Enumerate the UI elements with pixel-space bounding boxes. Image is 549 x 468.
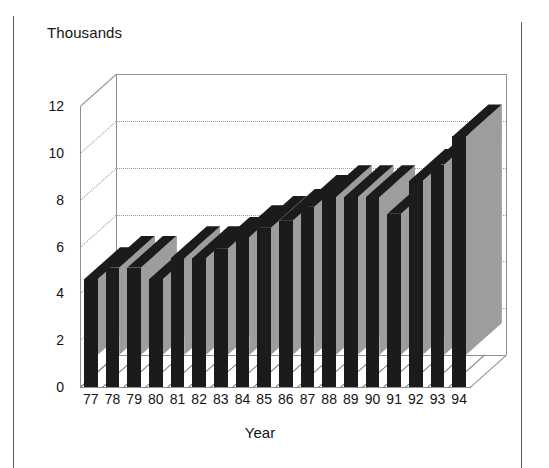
plot-area: 024681012 777879808182838485868788899091… <box>0 0 549 468</box>
y-tick-label-4: 4 <box>34 286 64 300</box>
bar-front-face-84 <box>236 237 249 387</box>
bar-front-face-88 <box>322 197 335 387</box>
chart-page: Thousands 024681012 77787980818283848586… <box>0 0 549 468</box>
bar-front-face-91 <box>387 214 400 387</box>
bar-front-face-86 <box>279 221 292 387</box>
bar-side-face-94 <box>466 104 502 355</box>
y-tick-label-10: 10 <box>34 146 64 160</box>
side-gridline-8 <box>80 168 117 201</box>
x-tick-label-94: 94 <box>446 392 472 406</box>
x-axis-title: Year <box>0 424 520 441</box>
side-gridline-6 <box>80 215 117 248</box>
bar-front-face-85 <box>257 228 270 387</box>
bar-front-face-80 <box>149 279 162 387</box>
back-wall-right-edge <box>506 74 507 355</box>
bar-front-face-81 <box>171 258 184 387</box>
bar-front-face-82 <box>192 258 205 387</box>
gridline-10 <box>116 121 506 122</box>
bar-front-face-87 <box>301 207 314 387</box>
bar-front-face-79 <box>127 268 140 387</box>
bar-front-face-89 <box>344 197 357 387</box>
y-tick-label-2: 2 <box>34 333 64 347</box>
bar-front-face-92 <box>409 181 422 387</box>
y-tick-label-12: 12 <box>34 99 64 113</box>
gridline-12 <box>116 74 506 75</box>
floor-right-depth-edge <box>470 355 507 388</box>
bar-front-face-94 <box>452 136 465 387</box>
side-gridline-12 <box>80 74 117 107</box>
side-gridline-10 <box>80 121 117 154</box>
bar-front-face-90 <box>366 197 379 387</box>
bar-front-face-77 <box>84 279 97 387</box>
bar-front-face-83 <box>214 249 227 387</box>
bar-front-face-93 <box>431 165 444 387</box>
bar-front-face-78 <box>106 268 119 387</box>
y-tick-label-6: 6 <box>34 240 64 254</box>
y-tick-label-8: 8 <box>34 193 64 207</box>
y-tick-label-0: 0 <box>34 380 64 394</box>
